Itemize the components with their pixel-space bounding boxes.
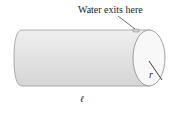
outlet-leader-line	[118, 16, 135, 29]
water-outlet	[133, 29, 139, 32]
length-label: ℓ	[80, 94, 84, 104]
cylinder-body	[14, 30, 150, 86]
radius-label: r	[149, 69, 153, 80]
outlet-label: Water exits here	[78, 4, 143, 15]
cylinder-diagram: Water exits here r ℓ	[0, 0, 171, 115]
cylinder-drawing	[0, 0, 171, 115]
